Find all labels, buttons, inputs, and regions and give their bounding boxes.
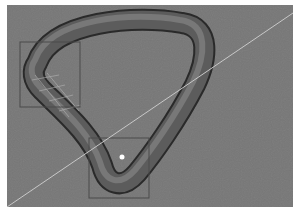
scene-canvas[interactable]: [7, 5, 293, 207]
selected-vertex-marker[interactable]: [120, 155, 125, 160]
3d-viewport[interactable]: [7, 5, 293, 207]
